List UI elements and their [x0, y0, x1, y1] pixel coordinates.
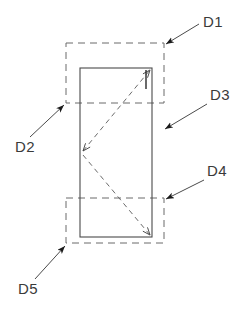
leader-line-d4: [166, 180, 204, 199]
leader-line-d5: [35, 246, 65, 279]
callout-label-d4: D4: [207, 162, 227, 179]
callout-labels-group: D1 D2 D3 D4 D5: [15, 13, 230, 297]
callout-label-d1: D1: [203, 13, 223, 30]
diagram-canvas: D1 D2 D3 D4 D5: [0, 0, 245, 311]
callout-label-d5: D5: [18, 280, 38, 297]
lower-dashed-rectangle: [66, 198, 164, 243]
technical-diagram-figure: D1 D2 D3 D4 D5: [0, 0, 245, 311]
callout-label-d3: D3: [210, 86, 230, 103]
callout-leaders-group: [30, 24, 207, 279]
main-rectangle: [80, 68, 152, 237]
leader-line-d1: [166, 24, 199, 44]
callout-label-d2: D2: [15, 138, 35, 155]
lower-diagonal: [83, 155, 150, 235]
leader-line-d2: [30, 105, 64, 137]
upper-dashed-rectangle: [66, 43, 164, 103]
dashed-regions-group: [66, 43, 164, 243]
leader-line-d3: [165, 104, 207, 129]
upper-diagonal: [83, 70, 150, 151]
internal-diagonals-group: [83, 70, 150, 235]
